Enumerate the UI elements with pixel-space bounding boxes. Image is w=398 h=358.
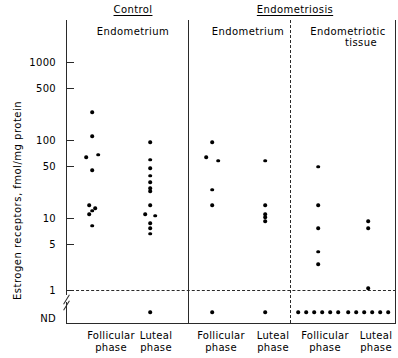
data-point bbox=[366, 220, 370, 224]
x-label-group-2-line2: phase bbox=[140, 342, 172, 353]
y-tick-label-10: 10 bbox=[20, 213, 56, 224]
data-point bbox=[90, 168, 94, 172]
data-point bbox=[148, 166, 152, 170]
data-point bbox=[148, 222, 152, 226]
data-point bbox=[148, 158, 152, 162]
data-point-nd bbox=[336, 310, 340, 314]
top-header-control: Control bbox=[78, 4, 188, 15]
data-point-nd bbox=[263, 310, 267, 314]
y-tick-100 bbox=[67, 140, 74, 141]
sub-header-control-endometrium: Endometrium bbox=[72, 26, 194, 37]
data-point bbox=[366, 226, 370, 230]
y-axis-nd-label: ND bbox=[20, 313, 56, 324]
data-point bbox=[216, 159, 220, 163]
data-point bbox=[316, 262, 320, 266]
y-tick-label-500: 500 bbox=[20, 83, 56, 94]
data-point bbox=[148, 189, 152, 193]
data-point bbox=[263, 220, 267, 224]
data-point bbox=[90, 135, 94, 139]
y-axis-title: Estrogen receptors, fmol/mg protein bbox=[12, 101, 23, 300]
x-label-group-5-line2: phase bbox=[309, 342, 341, 353]
data-point bbox=[204, 155, 208, 159]
y-tick-label-1000: 1000 bbox=[20, 57, 56, 68]
data-point-nd bbox=[210, 310, 214, 314]
data-point-nd bbox=[354, 310, 358, 314]
data-point bbox=[87, 212, 91, 216]
panel-divider-control-endometriosis bbox=[188, 20, 189, 323]
data-point bbox=[210, 204, 214, 208]
data-point bbox=[210, 188, 214, 192]
data-point bbox=[143, 212, 147, 216]
data-point-nd bbox=[304, 310, 308, 314]
data-point bbox=[316, 226, 320, 230]
panel-divider-endometrium-endometriotic bbox=[290, 20, 291, 323]
data-point bbox=[366, 287, 370, 291]
x-label-group-6: Luteal phase bbox=[340, 330, 398, 354]
data-point bbox=[87, 204, 91, 208]
data-point-nd bbox=[362, 310, 366, 314]
data-point-nd bbox=[386, 310, 390, 314]
data-point bbox=[84, 155, 88, 159]
sub-header-endometriotic-tissue-line2: tissue bbox=[345, 37, 377, 48]
data-point bbox=[148, 174, 152, 178]
y-tick-50 bbox=[67, 166, 74, 167]
y-tick-label-5: 5 bbox=[20, 239, 56, 250]
x-label-group-6-line1: Luteal bbox=[360, 330, 393, 341]
data-point bbox=[316, 250, 320, 254]
data-point-nd bbox=[370, 310, 374, 314]
x-label-group-2-line1: Luteal bbox=[140, 330, 173, 341]
y-tick-1000 bbox=[67, 62, 74, 63]
data-point-nd bbox=[346, 310, 350, 314]
data-point bbox=[148, 181, 152, 185]
y-tick-label-50: 50 bbox=[20, 161, 56, 172]
data-point bbox=[263, 204, 267, 208]
y-tick-label-1: 1 bbox=[20, 285, 56, 296]
x-label-group-6-line2: phase bbox=[360, 342, 392, 353]
data-point-nd bbox=[320, 310, 324, 314]
data-point-nd bbox=[378, 310, 382, 314]
y-tick-500 bbox=[67, 88, 74, 89]
data-point bbox=[96, 153, 100, 157]
detection-limit-line bbox=[66, 290, 396, 291]
x-label-group-3-line2: phase bbox=[205, 342, 237, 353]
data-point bbox=[148, 232, 152, 236]
y-tick-10 bbox=[67, 218, 74, 219]
data-point-nd bbox=[296, 310, 300, 314]
data-point bbox=[210, 140, 214, 144]
data-point bbox=[316, 165, 320, 169]
data-point-nd bbox=[148, 310, 152, 314]
data-point bbox=[148, 204, 152, 208]
sub-header-endometriotic-tissue: Endometriotic tissue bbox=[300, 26, 396, 48]
sub-header-endometriotic-tissue-line1: Endometriotic bbox=[310, 26, 385, 37]
top-header-endometriosis: Endometriosis bbox=[205, 4, 385, 15]
data-point bbox=[153, 214, 157, 218]
data-point bbox=[90, 110, 94, 114]
data-point bbox=[263, 159, 267, 163]
data-point bbox=[148, 140, 152, 144]
data-point-nd bbox=[328, 310, 332, 314]
plot-right-border bbox=[395, 20, 396, 324]
figure-estrogen-receptor-scatter: Control Endometriosis Endometrium Endome… bbox=[0, 0, 398, 358]
data-point bbox=[90, 224, 94, 228]
y-tick-5 bbox=[67, 244, 74, 245]
data-point bbox=[316, 204, 320, 208]
data-point bbox=[148, 226, 152, 230]
y-tick-label-100: 100 bbox=[20, 135, 56, 146]
x-axis-baseline bbox=[66, 323, 396, 324]
data-point-nd bbox=[312, 310, 316, 314]
